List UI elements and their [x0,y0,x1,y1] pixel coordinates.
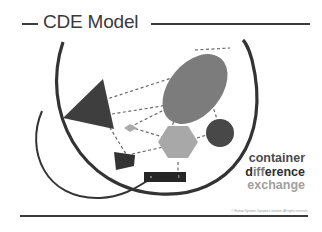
cde-diagram [0,0,322,232]
legend-exchange: exchange [243,179,305,193]
legend-difference-end: erence [265,165,305,179]
trapezoid-shape-icon [114,152,135,170]
cde-legend: container difference exchange [243,152,305,193]
copyright-text: © Human Systems Dynamics Institute. All … [212,209,308,213]
connector-diamond-ellipse [130,108,168,127]
legend-difference-start: d [245,165,253,179]
circle-shape-icon [206,119,234,147]
connector-ellipse-top [195,48,230,50]
diamond-shape-icon [124,124,137,132]
bottom-rule [20,215,308,217]
hexagon-shape-icon [158,126,198,158]
connector-triangle-ellipse [112,105,168,114]
legend-difference-mid: iff [253,165,265,179]
legend-difference: difference [243,166,305,180]
triangle-shape-icon [63,79,114,129]
legend-container: container [243,152,305,166]
